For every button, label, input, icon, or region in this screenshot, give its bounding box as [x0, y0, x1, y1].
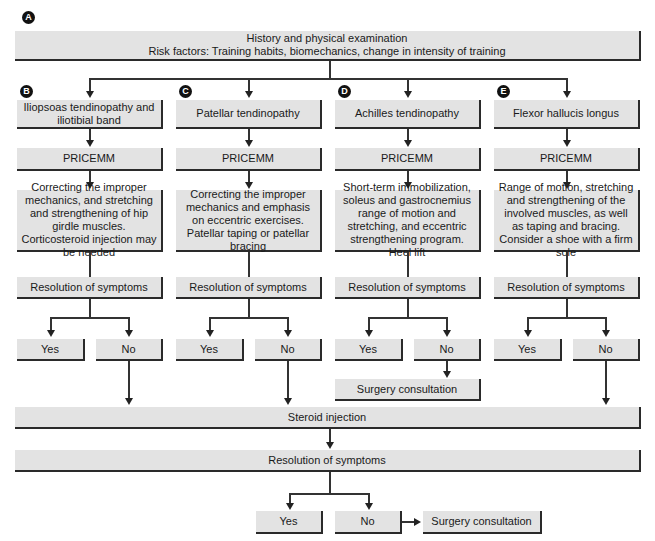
no-box: No [414, 339, 481, 361]
yes-label: Yes [280, 515, 298, 528]
badge-d: D [338, 85, 351, 98]
arrow-down-icon [286, 503, 294, 510]
connector [209, 317, 288, 319]
yes-box: Yes [494, 339, 562, 361]
arrow-down-icon [125, 330, 133, 337]
no-label: No [439, 343, 453, 356]
connector [329, 61, 331, 79]
connector [287, 317, 289, 331]
resolution-label: Resolution of symptoms [30, 281, 147, 294]
arrow-right-icon [414, 518, 421, 526]
connector [605, 317, 607, 331]
surgery-consultation-label: Surgery consultation [357, 383, 457, 396]
arrow-down-icon [602, 398, 610, 405]
arrow-down-icon [602, 330, 610, 337]
history-exam-box: History and physical examination Risk fa… [15, 31, 641, 61]
arrow-down-icon [443, 330, 451, 337]
surgery-consultation-label: Surgery consultation [431, 515, 531, 528]
arrow-down-icon [284, 398, 292, 405]
resolution-box: Resolution of symptoms [335, 277, 481, 299]
treatment-box: Short-term immobilization, soleus and ga… [335, 190, 481, 252]
condition-title: Achilles tendinopathy [355, 107, 459, 120]
badge-c: C [179, 85, 192, 98]
connector [289, 493, 369, 495]
condition-title: Flexor hallucis longus [513, 107, 619, 120]
treatment-text: Range of motion, stretching and strength… [497, 181, 635, 259]
connector [89, 78, 567, 80]
connector [50, 317, 52, 331]
treatment-box: Correcting the improper mechanics, and s… [17, 190, 163, 252]
arrow-down-icon [563, 140, 571, 147]
connector [89, 299, 91, 318]
connector [407, 252, 409, 277]
arrow-down-icon [86, 140, 94, 147]
connector [287, 361, 289, 399]
steroid-injection-box: Steroid injection [15, 407, 641, 429]
resolution-label: Resolution of symptoms [348, 281, 465, 294]
connector [368, 317, 370, 331]
arrow-down-icon [125, 398, 133, 405]
condition-box-patellar: Patellar tendinopathy [176, 100, 322, 129]
resolution-box: Resolution of symptoms [17, 277, 163, 299]
arrow-down-icon [245, 91, 253, 98]
surgery-consultation-box: Surgery consultation [335, 379, 481, 401]
badge-b: B [20, 85, 33, 98]
connector [527, 317, 529, 331]
connector [605, 361, 607, 399]
connector [368, 317, 447, 319]
step-label: PRICEMM [540, 152, 592, 165]
no-label: No [280, 343, 294, 356]
connector [248, 299, 250, 318]
treatment-text: Correcting the improper mechanics and em… [179, 188, 317, 253]
arrow-down-icon [404, 91, 412, 98]
condition-box-iliopsoas: Iliopsoas tendinopathy and iliotibial ba… [17, 100, 163, 129]
connector [566, 78, 568, 92]
no-label: No [360, 515, 374, 528]
connector [407, 299, 409, 318]
arrow-down-icon [563, 91, 571, 98]
no-label: No [121, 343, 135, 356]
connector [128, 361, 130, 399]
condition-title: Iliopsoas tendinopathy and iliotibial ba… [20, 101, 158, 127]
pricemm-box: PRICEMM [176, 148, 322, 171]
yes-label: Yes [41, 343, 59, 356]
connector [248, 78, 250, 92]
final-yes-box: Yes [256, 511, 323, 534]
condition-title: Patellar tendinopathy [196, 107, 299, 120]
treatment-box: Range of motion, stretching and strength… [494, 190, 640, 252]
treatment-box: Correcting the improper mechanics and em… [176, 190, 322, 252]
connector [566, 252, 568, 277]
arrow-down-icon [206, 330, 214, 337]
resolution-label: Resolution of symptoms [189, 281, 306, 294]
arrow-down-icon [284, 330, 292, 337]
resolution-label: Resolution of symptoms [268, 454, 385, 467]
badge-e: E [497, 85, 510, 98]
connector [50, 317, 129, 319]
arrow-down-icon [245, 140, 253, 147]
connector [329, 429, 331, 443]
yes-label: Yes [518, 343, 536, 356]
connector [566, 299, 568, 318]
arrow-down-icon [86, 91, 94, 98]
yes-box: Yes [17, 339, 85, 361]
arrow-down-icon [524, 330, 532, 337]
resolution-label: Resolution of symptoms [507, 281, 624, 294]
yes-label: Yes [359, 343, 377, 356]
step-label: PRICEMM [381, 152, 433, 165]
no-box: No [255, 339, 322, 361]
risk-factors-text: Risk factors: Training habits, biomechan… [148, 45, 505, 58]
arrow-down-icon [365, 330, 373, 337]
final-no-box: No [335, 511, 402, 534]
no-box: No [573, 339, 640, 361]
no-box: No [96, 339, 163, 361]
treatment-text: Short-term immobilization, soleus and ga… [338, 181, 476, 259]
connector [209, 317, 211, 331]
yes-box: Yes [176, 339, 244, 361]
resolution-box: Resolution of symptoms [176, 277, 322, 299]
arrow-down-icon [47, 330, 55, 337]
steroid-injection-label: Steroid injection [288, 411, 366, 424]
step-label: PRICEMM [63, 152, 115, 165]
step-label: PRICEMM [222, 152, 274, 165]
yes-label: Yes [200, 343, 218, 356]
connector [527, 317, 606, 319]
